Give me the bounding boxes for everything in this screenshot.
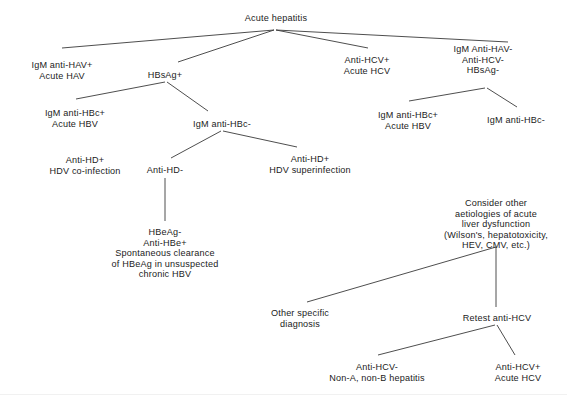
node-hd_super: Anti-HD+HDV superinfection	[269, 154, 351, 175]
node-consider_other-line-3: liver dysfunction	[444, 219, 548, 230]
edge-hbc_neg_mid-to-hd_super	[223, 131, 297, 147]
node-hbeag-line-4: of HBeAg in unsuspected	[112, 259, 219, 270]
node-consider_other-line-1: Consider other	[444, 198, 548, 209]
bottom-rule	[0, 394, 567, 395]
node-hbsag_pos: HBsAg+	[148, 70, 183, 81]
node-hbsag_pos-line-1: HBsAg+	[148, 70, 183, 81]
node-hd_neg-line-1: Anti-HD-	[147, 165, 183, 176]
node-all_neg-line-2: Anti-HCV-	[454, 55, 513, 66]
node-hcv_pos-line-1: Anti-HCV+	[344, 55, 391, 66]
node-hav-line-1: IgM anti-HAV+	[31, 60, 92, 71]
node-hbc_pos_right: IgM anti-HBc+Acute HBV	[378, 110, 438, 131]
node-hd_super-line-2: HDV superinfection	[269, 165, 351, 176]
node-hbc_pos_left: IgM anti-HBc+Acute HBV	[45, 108, 105, 129]
edge-all_neg-to-hbc_pos_right	[409, 88, 485, 101]
edge-root-to-all_neg	[276, 30, 508, 42]
node-hcv_pos_final-line-1: Anti-HCV+	[495, 362, 542, 373]
node-hbeag-line-3: Spontaneous clearance	[112, 248, 219, 259]
node-hbc_neg_right-line-1: IgM anti-HBc-	[487, 115, 545, 126]
node-all_neg-line-3: HBsAg-	[454, 65, 513, 76]
node-hcv_pos_final-line-2: Acute HCV	[495, 373, 542, 384]
node-root-line-1: Acute hepatitis	[245, 13, 307, 24]
node-root: Acute hepatitis	[245, 13, 307, 24]
node-consider_other: Consider otheraetiologies of acuteliver …	[444, 198, 548, 251]
edge-root-to-hcv_pos	[276, 30, 368, 48]
node-retest_hcv-line-1: Retest anti-HCV	[463, 313, 531, 324]
node-hcv_pos_final: Anti-HCV+Acute HCV	[495, 362, 542, 383]
node-hd_super-line-1: Anti-HD+	[269, 154, 351, 165]
node-hcv_neg_final-line-2: Non-A, non-B hepatitis	[329, 373, 425, 384]
edge-root-to-hav	[62, 30, 274, 48]
node-hbeag-line-5: chronic HBV	[112, 269, 219, 280]
hepatitis-decision-tree-figure: Acute hepatitisIgM anti-HAV+Acute HAVHBs…	[0, 0, 567, 397]
node-hbc_neg_mid: IgM anti-HBc-	[193, 119, 251, 130]
node-hcv_pos-line-2: Acute HCV	[344, 66, 391, 77]
edge-root-to-hbsag_pos	[178, 30, 274, 62]
node-retest_hcv: Retest anti-HCV	[463, 313, 531, 324]
edge-hbsag_pos-to-hbc_neg_mid	[167, 82, 208, 111]
node-other_specific-line-2: diagnosis	[271, 319, 329, 330]
node-consider_other-line-2: aetiologies of acute	[444, 209, 548, 220]
edge-all_neg-to-hbc_neg_right	[487, 88, 517, 107]
node-hcv_pos: Anti-HCV+Acute HCV	[344, 55, 391, 76]
node-other_specific-line-1: Other specific	[271, 308, 329, 319]
node-hbeag: HBeAg-Anti-HBe+Spontaneous clearanceof H…	[112, 227, 219, 280]
node-other_specific: Other specificdiagnosis	[271, 308, 329, 329]
node-hbc_neg_right: IgM anti-HBc-	[487, 115, 545, 126]
edge-retest_hcv-to-hcv_neg_final	[378, 325, 495, 355]
node-hbc_neg_mid-line-1: IgM anti-HBc-	[193, 119, 251, 130]
node-hbeag-line-2: Anti-HBe+	[112, 238, 219, 249]
node-hd_pos: Anti-HD+HDV co-infection	[49, 155, 120, 176]
node-all_neg: IgM Anti-HAV-Anti-HCV-HBsAg-	[454, 44, 513, 76]
node-hbc_pos_right-line-2: Acute HBV	[378, 121, 438, 132]
node-hbeag-line-1: HBeAg-	[112, 227, 219, 238]
node-hbc_pos_left-line-2: Acute HBV	[45, 119, 105, 130]
node-hd_neg: Anti-HD-	[147, 165, 183, 176]
edge-consider_other-to-other_specific	[307, 247, 496, 302]
node-hbc_pos_right-line-1: IgM anti-HBc+	[378, 110, 438, 121]
node-hcv_neg_final-line-1: Anti-HCV-	[329, 362, 425, 373]
node-hav: IgM anti-HAV+Acute HAV	[31, 60, 92, 81]
edge-hbsag_pos-to-hbc_pos_left	[76, 82, 165, 99]
node-consider_other-line-4: (Wilson's, hepatotoxicity,	[444, 230, 548, 241]
edge-retest_hcv-to-hcv_pos_final	[497, 325, 515, 355]
node-all_neg-line-1: IgM Anti-HAV-	[454, 44, 513, 55]
node-hcv_neg_final: Anti-HCV-Non-A, non-B hepatitis	[329, 362, 425, 383]
node-hav-line-2: Acute HAV	[31, 71, 92, 82]
node-hbc_pos_left-line-1: IgM anti-HBc+	[45, 108, 105, 119]
node-hd_pos-line-2: HDV co-infection	[49, 166, 120, 177]
node-consider_other-line-5: HEV, CMV, etc.)	[444, 240, 548, 251]
node-hd_pos-line-1: Anti-HD+	[49, 155, 120, 166]
edge-hbc_neg_mid-to-hd_neg	[171, 131, 221, 158]
